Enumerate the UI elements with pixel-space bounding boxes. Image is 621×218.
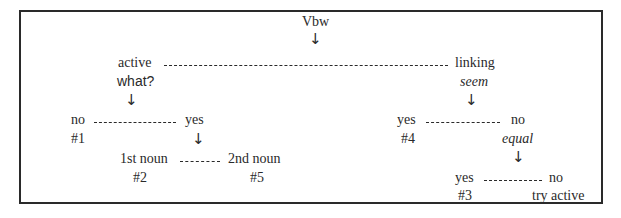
active-node: active	[118, 55, 151, 71]
ref-4: #4	[401, 131, 415, 147]
connector-line	[164, 65, 448, 66]
root-node: Vbw	[302, 14, 329, 30]
connector-line	[426, 122, 500, 123]
active-question: what?	[117, 73, 154, 89]
arrow-down-icon: ↓	[192, 131, 205, 147]
ref-3: #3	[458, 188, 472, 204]
second-noun-node: 2nd noun	[228, 151, 281, 167]
linking-node: linking	[455, 55, 495, 71]
arrow-down-icon: ↓	[125, 92, 138, 108]
linking-question: seem	[460, 74, 488, 90]
connector-line	[484, 180, 542, 181]
arrow-down-icon: ↓	[465, 92, 478, 108]
equal-no-node: no	[549, 170, 563, 186]
active-yes-node: yes	[185, 112, 204, 128]
connector-line	[94, 122, 176, 123]
linking-no-node: no	[511, 112, 525, 128]
try-active-note: try active	[532, 188, 584, 204]
connector-line	[180, 161, 220, 162]
ref-5: #5	[250, 170, 264, 186]
ref-2: #2	[133, 170, 147, 186]
arrow-down-icon: ↓	[512, 149, 525, 165]
first-noun-node: 1st noun	[120, 151, 168, 167]
arrow-down-icon: ↓	[309, 31, 322, 47]
equal-question: equal	[502, 131, 533, 147]
equal-yes-node: yes	[455, 170, 474, 186]
ref-1: #1	[71, 131, 85, 147]
linking-yes-node: yes	[397, 112, 416, 128]
active-no-node: no	[71, 112, 85, 128]
